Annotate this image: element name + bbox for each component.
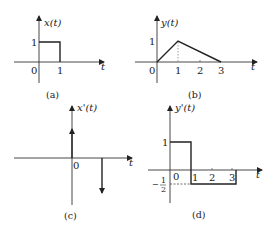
ylabel-d: y'(t): [174, 102, 195, 113]
xtick-0-d: 0: [173, 171, 179, 182]
panel-b: y(t) 1 0 1 2 3 t (b): [135, 16, 257, 100]
panel-d: y'(t) 1 0 1 2 3 t − 1 2 (d): [148, 102, 262, 220]
ylabel-b: y(t): [160, 17, 179, 28]
minus-sign-d: −: [152, 180, 159, 189]
caption-c: (c): [64, 210, 77, 221]
xlabel-c: t: [129, 157, 134, 168]
xlabel-d: t: [256, 169, 261, 180]
fraction-denominator-d: 2: [161, 185, 166, 194]
derivative-signal-d: [170, 142, 236, 184]
xlabel-a: t: [101, 61, 106, 72]
ytick-1-d: 1: [162, 137, 168, 148]
xlabel-b: t: [251, 61, 256, 72]
caption-d: (d): [192, 209, 206, 220]
xtick-0-c: 0: [73, 160, 79, 171]
xtick-2-d: 2: [209, 172, 215, 183]
xtick-3-d: 3: [229, 172, 235, 183]
xtick-2-b: 2: [197, 65, 203, 76]
triangle-signal-b: [157, 41, 221, 62]
xtick-1-d: 1: [192, 172, 198, 183]
panel-c: x'(t) 0 t (c): [14, 102, 134, 221]
xtick-0-a: 0: [31, 65, 37, 76]
pulse-signal-a: [39, 42, 60, 62]
xtick-1-b: 1: [175, 65, 181, 76]
xtick-3-b: 3: [218, 65, 224, 76]
signals-figure: x(t) 1 0 1 t (a) y(t) 1 0 1 2 3 t (b) x'…: [0, 0, 271, 234]
xtick-0-b: 0: [149, 65, 155, 76]
ytick-1-b: 1: [149, 36, 155, 47]
ylabel-a: x(t): [44, 17, 62, 28]
ytick-neg-half-d: − 1 2: [152, 176, 166, 194]
panel-a: x(t) 1 0 1 t (a): [14, 16, 106, 100]
ylabel-c: x'(t): [77, 102, 97, 113]
ytick-1-a: 1: [31, 37, 37, 48]
fraction-numerator-d: 1: [161, 176, 166, 185]
caption-b: (b): [188, 89, 202, 100]
caption-a: (a): [46, 89, 59, 100]
xtick-1-a: 1: [57, 65, 63, 76]
